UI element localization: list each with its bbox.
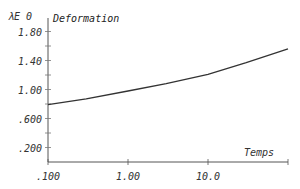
y-tick-label: .200: [18, 143, 42, 154]
y-tick-label: 1.40: [18, 56, 42, 67]
y-axis-label: λE 0: [8, 11, 32, 22]
y-ticks: .200.6001.001.401.80: [18, 27, 51, 154]
x-axis-label: Temps: [244, 147, 274, 158]
deformation-curve: [48, 49, 288, 105]
y-tick-label: .600: [18, 114, 42, 125]
x-tick-label: 1.00: [116, 171, 140, 182]
x-tick-label: 10.0: [196, 171, 220, 182]
y-tick-label: 1.80: [18, 27, 42, 38]
x-tick-label: .100: [36, 171, 60, 182]
y-tick-label: 1.00: [18, 85, 42, 96]
chart-title: Deformation: [52, 13, 119, 24]
deformation-chart: .200.6001.001.401.80 .1001.0010.0 λE 0 D…: [0, 0, 300, 189]
